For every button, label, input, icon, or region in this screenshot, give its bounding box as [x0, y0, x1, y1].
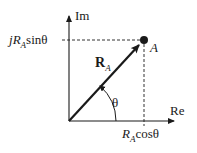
real-axis-label: Re: [170, 104, 184, 117]
point-a-dot: [140, 36, 148, 44]
imag-axis-label: Im: [75, 9, 89, 22]
point-a-label: A: [150, 41, 158, 54]
real-projection-label: RAcosθ: [122, 127, 159, 140]
diagram-canvas: [0, 0, 197, 153]
vector-label: RA: [95, 56, 111, 70]
phasor-diagram: Im Re jRAsinθ RAcosθ RA A θ: [0, 0, 197, 153]
imag-projection-label: jRAsinθ: [9, 33, 47, 46]
theta-label: θ: [112, 96, 118, 109]
